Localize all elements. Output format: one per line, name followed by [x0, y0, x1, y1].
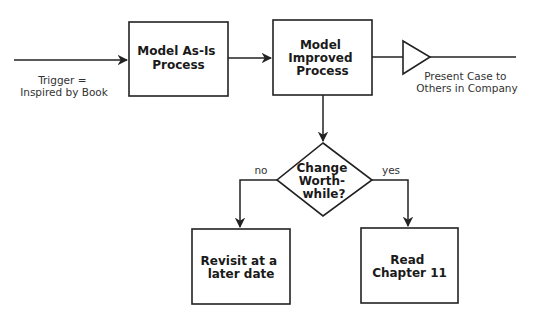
node-revisit-line1: Revisit at a: [201, 254, 278, 268]
node-model-improved-line3: Process: [296, 64, 349, 78]
no-label: no: [254, 164, 267, 176]
node-revisit-line2: later date: [208, 267, 275, 281]
svg-text:Change Worth- whil: Change Worth- while?: [297, 161, 352, 201]
node-decision-line1: Change: [297, 161, 348, 175]
flowchart: Model As-Is Process Model Improved Proce…: [0, 0, 534, 323]
node-model-as-is-line1: Model As-Is: [137, 44, 215, 58]
node-read-line1: Read: [390, 253, 424, 267]
node-model-improved-line2: Improved: [288, 51, 352, 65]
node-decision: Change Worth- while?: [277, 143, 372, 216]
node-revisit: Revisit at a later date: [192, 229, 290, 304]
present-case-line1: Present Case to: [424, 70, 506, 82]
edge-decision-yes: [372, 180, 408, 226]
present-case-label: Present Case to Others in Company: [416, 70, 517, 94]
trigger-label-line2: Inspired by Book: [20, 86, 109, 98]
trigger-label: Trigger = Inspired by Book: [20, 74, 109, 98]
node-model-improved-line1: Model: [300, 38, 341, 52]
node-decision-line2: Worth-: [299, 174, 345, 188]
present-case-line2: Others in Company: [416, 82, 517, 94]
edge-decision-no: [240, 180, 277, 227]
node-read-chapter-11: Read Chapter 11: [361, 228, 458, 303]
node-model-as-is: Model As-Is Process: [129, 22, 228, 96]
node-model-as-is-line2: Process: [152, 58, 205, 72]
svg-text:Revisit at a later date: Revisit at a later date: [201, 254, 282, 281]
node-read-line2: Chapter 11: [372, 266, 447, 280]
trigger-label-line1: Trigger =: [37, 74, 86, 86]
node-decision-line3: while?: [303, 187, 346, 201]
node-model-improved: Model Improved Process: [273, 20, 372, 95]
yes-label: yes: [382, 164, 400, 176]
